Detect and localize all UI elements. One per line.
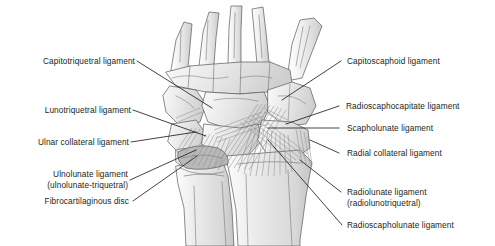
label-radiolunate-ligament: Radiolunate ligament (radiolunotriquetra… [347, 187, 427, 208]
label-capitoscaphoid-ligament: Capitoscaphoid ligament [347, 56, 440, 67]
label-ulnolunate-ligament: Ulnolunate ligament (ulnolunate-triquetr… [47, 169, 128, 190]
label-ulnar-collateral-ligament: Ulnar collateral ligament [38, 137, 129, 148]
label-radial-collateral-ligament: Radial collateral ligament [347, 148, 442, 159]
label-lunotriquetral-ligament: Lunotriquetral ligament [45, 105, 131, 116]
metacarpal-3 [228, 6, 242, 68]
label-radioscaphocapitate-ligament: Radioscaphocapitate ligament [346, 101, 459, 112]
anatomy-figure: Capitotriquetral ligament Lunotriquetral… [0, 0, 495, 246]
leader-radial-collateral [310, 140, 339, 153]
label-fibrocartilaginous-disc: Fibrocartilaginous disc [45, 196, 129, 207]
ulna [176, 160, 234, 246]
capitate [202, 92, 270, 130]
label-scapholunate-ligament: Scapholunate ligament [347, 123, 433, 134]
metacarpal-2 [252, 7, 269, 69]
metacarpal-4 [199, 12, 219, 70]
label-capitotriquetral-ligament: Capitotriquetral ligament [43, 56, 135, 67]
label-radioscapholunate-ligament: Radioscapholunate ligament [347, 220, 454, 231]
hamate [163, 86, 206, 126]
bones-group [163, 6, 322, 246]
metacarpal-1-thumb [288, 18, 322, 80]
